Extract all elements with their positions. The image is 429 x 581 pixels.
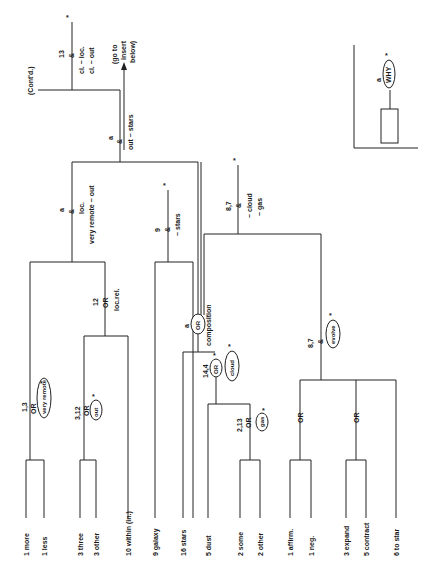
or-1-label: OR xyxy=(297,413,304,424)
node-14-4-op: OR xyxy=(213,364,219,374)
leaf-label: 3 expand xyxy=(343,526,351,556)
tree-diagram: (Cont'd.) 13 & cl. ~ loc. cl. ~ out * (g… xyxy=(0,0,429,581)
node-12-op: OR xyxy=(102,298,109,309)
star-marker: * xyxy=(233,157,236,164)
node-comp-op: OR xyxy=(195,320,201,330)
leaf-label: 3 three xyxy=(77,533,84,556)
insert-ellipse-label: WHY xyxy=(385,66,392,83)
node-1-3-op: OR xyxy=(30,404,37,415)
goto-line1: (go to xyxy=(111,45,119,64)
node-8-7-top-op: & xyxy=(235,203,242,208)
or-2-label: OR xyxy=(353,413,360,424)
star-marker: * xyxy=(66,14,69,21)
leaf-label: 9 galaxy xyxy=(152,528,160,556)
node-a-id: a xyxy=(107,136,114,140)
node-9-op: & xyxy=(164,227,171,232)
node-8-7-top-cond2: ~ gas xyxy=(256,198,264,216)
leaf-label: 2 some xyxy=(237,532,244,556)
leaf-label: 6 to star xyxy=(393,528,400,556)
node-12-id: 12 xyxy=(92,298,99,306)
node-comp-id: a xyxy=(183,324,190,328)
node-13-op: & xyxy=(68,53,75,58)
leaf-label: 10 within (in.) xyxy=(125,511,133,556)
node-9-cond: ~ stars xyxy=(174,213,181,236)
node-8-7-op: & xyxy=(317,339,324,344)
star-marker: * xyxy=(213,352,216,359)
node-loc-id: a xyxy=(58,208,65,212)
star-marker: * xyxy=(262,407,265,414)
leaf-label: 5 contract xyxy=(363,522,370,556)
node-12-cond: loc.rel. xyxy=(113,288,120,311)
node-9-id: 9 xyxy=(154,228,161,232)
node-a-cond: out ~ stars xyxy=(127,114,134,150)
node-8-7-ellipse: evolve xyxy=(330,325,336,344)
star-marker: * xyxy=(92,393,95,400)
node-loc-op: & xyxy=(68,209,75,214)
node-13-id: 13 xyxy=(58,50,65,58)
continuation-label: (Cont'd.) xyxy=(27,67,35,96)
node-3-12-ellipse: out xyxy=(93,408,99,417)
node-loc-cond1: loc. xyxy=(78,202,85,214)
leaf-label: 5 dust xyxy=(205,535,212,556)
node-comp-cond: composition xyxy=(205,304,213,346)
leaf-label: 1 affirm. xyxy=(287,529,294,556)
insert-id: a xyxy=(375,78,382,82)
leaf-label: 1 more xyxy=(23,533,30,556)
leaf-label: 1 less xyxy=(41,536,48,556)
goto-line3: below) xyxy=(129,41,137,63)
star-marker: * xyxy=(40,380,43,387)
node-1-3-id: 1,3 xyxy=(21,402,29,412)
node-8-7-top-id: 8,7 xyxy=(225,201,233,211)
node-loc-cond2: very remote ~ out xyxy=(88,185,96,244)
leaf-label: 3 other xyxy=(93,532,100,556)
leaf-label: 16 stars xyxy=(180,529,187,556)
leaf-label: 1 neg. xyxy=(308,536,316,556)
star-marker: * xyxy=(385,52,388,59)
node-2-13-op: OR xyxy=(245,418,252,429)
node-a-op: & xyxy=(116,139,123,144)
node-8-7-top-cond1: ~ cloud xyxy=(246,193,253,218)
node-2-13-id: 2,13 xyxy=(236,418,244,432)
star-marker: * xyxy=(329,312,332,319)
node-14-4-id: 14,4 xyxy=(202,364,210,378)
star-marker: * xyxy=(228,343,231,350)
node-14-4-ellipse: cloud xyxy=(229,360,235,376)
node-3-12-id: 3,12 xyxy=(74,406,82,420)
node-8-7-id: 8,7 xyxy=(307,338,315,348)
leaf-label: 2 other xyxy=(257,532,264,556)
node-13-cond1: cl. ~ loc. xyxy=(78,46,85,74)
node-2-13-ellipse: gas xyxy=(259,416,265,427)
node-13-cond2: cl. ~ out xyxy=(88,47,95,74)
node-3-12-op: OR xyxy=(83,406,90,417)
star-marker: * xyxy=(163,182,166,189)
goto-line2: insert xyxy=(120,40,127,60)
